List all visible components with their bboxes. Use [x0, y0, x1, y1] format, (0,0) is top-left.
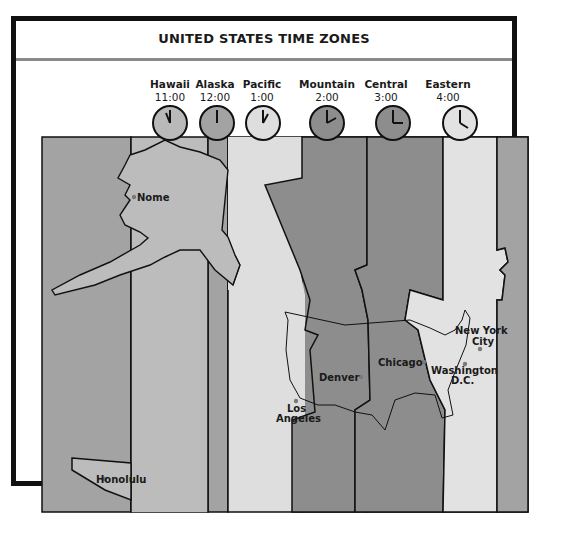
clock-mountain [310, 106, 344, 140]
band-hawaii-aleutian [42, 137, 131, 512]
clock-eastern [443, 106, 477, 140]
city-new-york-line2: City [472, 336, 495, 347]
clock-pacific [246, 106, 280, 140]
clock-central [376, 106, 410, 140]
city-nome: Nome [137, 192, 170, 203]
city-honolulu: Honolulu [96, 474, 146, 485]
time-zone-map: Nome Honolulu Los Angeles Denver Chicago… [0, 0, 575, 557]
city-denver: Denver [319, 372, 360, 383]
clock-alaska [200, 106, 234, 140]
city-los-angeles-line2: Angeles [276, 413, 321, 424]
clock-hawaii [153, 106, 187, 140]
city-new-york: New York [455, 325, 508, 336]
clocks [153, 106, 477, 140]
city-chicago: Chicago [378, 357, 423, 368]
city-washington-line2: D.C. [451, 375, 474, 386]
